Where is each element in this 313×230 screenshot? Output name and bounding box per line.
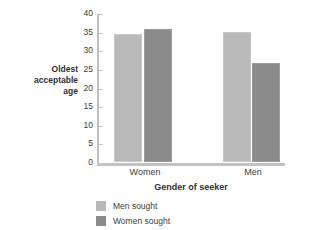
- plot-area: [97, 14, 285, 163]
- y-axis-tick-label: 25: [73, 65, 93, 74]
- bar: [252, 63, 280, 162]
- y-axis-title-line-2: acceptable: [8, 75, 78, 86]
- y-axis-tick-mark: [99, 163, 103, 164]
- bar: [114, 34, 142, 163]
- bar: [144, 29, 172, 162]
- y-axis-tick-labels: 0510152025303540: [73, 14, 93, 164]
- legend-label: Women sought: [113, 216, 170, 226]
- bar-chart: Oldest acceptable age 0510152025303540 W…: [0, 0, 313, 230]
- y-axis-title: Oldest acceptable age: [8, 64, 78, 97]
- x-axis-title: Gender of seeker: [97, 182, 285, 192]
- y-axis-tick-label: 0: [73, 158, 93, 167]
- y-axis-tick-label: 40: [73, 9, 93, 18]
- y-axis-tick-mark: [99, 14, 103, 15]
- y-axis-title-line-3: age: [8, 86, 78, 97]
- y-axis-tick-mark: [99, 107, 103, 108]
- y-axis-tick-label: 5: [73, 139, 93, 148]
- legend: Men sought Women sought: [96, 199, 170, 229]
- legend-swatch-icon: [96, 216, 106, 226]
- y-axis-tick-mark: [99, 51, 103, 52]
- y-axis-tick-label: 30: [73, 46, 93, 55]
- y-axis-title-line-1: Oldest: [8, 64, 78, 75]
- y-axis-tick-label: 15: [73, 102, 93, 111]
- y-axis-tick-mark: [99, 70, 103, 71]
- x-axis-category-label: Men: [213, 167, 293, 177]
- legend-item-women-sought: Women sought: [96, 214, 170, 227]
- y-axis-tick-label: 20: [73, 84, 93, 93]
- y-axis-tick-label: 35: [73, 28, 93, 37]
- x-axis-line: [97, 163, 285, 166]
- legend-label: Men sought: [113, 201, 157, 211]
- legend-swatch-icon: [96, 201, 106, 211]
- y-axis-tick-mark: [99, 89, 103, 90]
- legend-item-men-sought: Men sought: [96, 199, 170, 212]
- y-axis-tick-label: 10: [73, 121, 93, 130]
- y-axis-tick-mark: [99, 126, 103, 127]
- bar: [223, 32, 251, 162]
- y-axis-tick-mark: [99, 144, 103, 145]
- x-axis-category-label: Women: [105, 167, 185, 177]
- y-axis-tick-mark: [99, 33, 103, 34]
